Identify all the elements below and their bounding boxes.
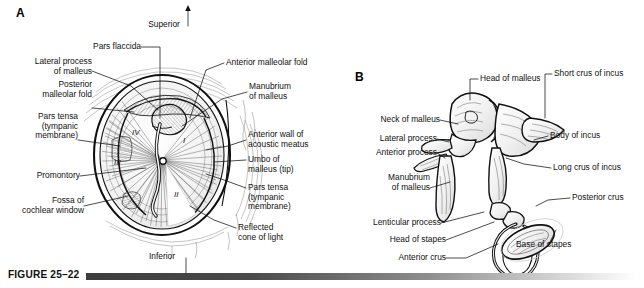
- figure-container: A B Superior Inferior Pars flaccida Late…: [0, 0, 644, 288]
- long-crus-of-incus: [489, 148, 507, 206]
- figure-caption-label: FIGURE 25–22: [8, 268, 79, 280]
- label-pars-tensa-right: Pars tensa (tympanic membrane): [248, 183, 336, 212]
- label-posterior-crus: Posterior crus: [572, 193, 644, 203]
- label-superior: Superior: [131, 20, 197, 30]
- label-anterior-wall-meatus: Anterior wall of acoustic meatus: [248, 130, 340, 149]
- label-manubrium-of-malleus: Manubrium of malleus: [249, 82, 335, 101]
- leader-posterior-crus: [536, 198, 570, 206]
- label-pars-tensa-left: Pars tensa (tympanic membrane): [2, 112, 78, 141]
- label-reflected-cone-of-light: Reflected cone of light: [238, 223, 326, 242]
- label-body-of-incus: Body of incus: [550, 131, 636, 141]
- label-manubrium-of-malleus-b: Manubrium of malleus: [358, 173, 430, 192]
- label-pars-flaccida: Pars flaccida: [41, 42, 141, 52]
- label-anterior-crus: Anterior crus: [358, 253, 446, 263]
- quadrant-numeral-iv: IV: [132, 128, 140, 137]
- label-umbo: Umbo of malleus (tip): [248, 155, 340, 174]
- label-fossa-cochlear-window: Fossa of cochlear window: [2, 196, 84, 215]
- label-neck-of-malleus: Neck of malleus: [350, 115, 440, 125]
- label-inferior: Inferior: [129, 252, 195, 262]
- label-anterior-malleolar-fold: Anterior malleolar fold: [226, 58, 336, 68]
- label-posterior-malleolar-fold: Posterior malleolar fold: [6, 80, 92, 99]
- umbo-point: [160, 158, 166, 164]
- fossa-cochlear-window-region: [122, 192, 141, 209]
- quadrant-numeral-ii: II: [174, 190, 178, 199]
- label-lenticular-process: Lenticular process: [348, 218, 441, 228]
- label-short-crus-of-incus: Short crus of incus: [554, 69, 644, 79]
- label-long-crus-of-incus: Long crus of incus: [553, 163, 644, 173]
- manubrium-of-malleus: [436, 156, 455, 222]
- panel-a-drawing: [84, 68, 262, 260]
- label-lateral-process: Lateral process of malleus: [6, 57, 92, 76]
- panel-label-b: B: [355, 70, 364, 84]
- label-base-of-stapes: Base of stapes: [516, 240, 604, 250]
- label-anterior-process: Anterior process: [348, 148, 437, 158]
- quadrant-numeral-iii: III: [114, 158, 121, 167]
- figure-caption-bar: [86, 273, 636, 280]
- panel-label-a: A: [16, 6, 25, 20]
- label-promontory: Promontory: [4, 171, 80, 181]
- superior-arrowhead: [185, 5, 191, 11]
- leader-long-crus: [506, 158, 551, 168]
- label-head-of-stapes: Head of stapes: [356, 235, 446, 245]
- leader-anterior-crus: [446, 244, 498, 258]
- quadrant-numeral-i: I: [183, 136, 185, 145]
- leader-head-of-stapes: [446, 222, 494, 240]
- label-lateral-process-b: Lateral process: [350, 134, 437, 144]
